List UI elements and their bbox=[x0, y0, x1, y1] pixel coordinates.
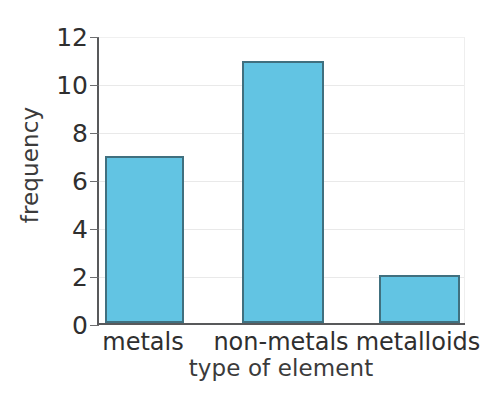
y-tick-label: 8 bbox=[72, 121, 88, 146]
y-tick-mark-10 bbox=[90, 85, 99, 86]
y-tick-mark-4 bbox=[90, 229, 99, 230]
x-tick-label-metalloids: metalloids bbox=[356, 329, 481, 355]
y-tick-mark-6 bbox=[90, 181, 99, 182]
bar-non-metals bbox=[242, 61, 324, 323]
y-tick-mark-8 bbox=[90, 133, 99, 134]
gridline-12 bbox=[99, 37, 465, 38]
plot-area bbox=[97, 37, 465, 325]
y-tick-label: 6 bbox=[72, 169, 88, 194]
y-tick-label: 12 bbox=[56, 25, 88, 50]
bar-metals bbox=[105, 156, 184, 323]
x-tick-label-metals: metals bbox=[102, 329, 183, 355]
y-tick-label: 0 bbox=[72, 313, 88, 338]
x-axis-title: type of element bbox=[97, 355, 465, 381]
bar-metalloids bbox=[379, 275, 460, 323]
y-tick-mark-12 bbox=[90, 37, 99, 38]
y-tick-label: 2 bbox=[72, 265, 88, 290]
y-axis-tick-labels: 0 2 4 6 8 10 12 bbox=[40, 37, 88, 325]
y-tick-mark-0 bbox=[90, 325, 99, 326]
y-tick-label: 10 bbox=[56, 73, 88, 98]
bar-chart-figure: frequency 0 2 4 6 8 10 12 metals no bbox=[0, 0, 493, 398]
y-tick-label: 4 bbox=[72, 217, 88, 242]
y-tick-mark-2 bbox=[90, 277, 99, 278]
x-tick-label-non-metals: non-metals bbox=[213, 329, 348, 355]
